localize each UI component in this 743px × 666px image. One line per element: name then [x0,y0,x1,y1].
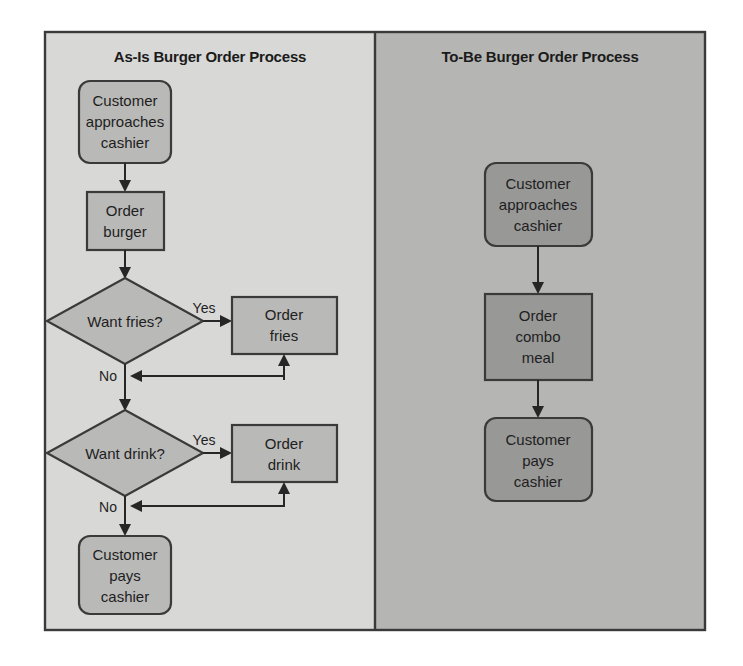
node-label-line: Order [519,307,557,324]
node-label-line: approaches [499,196,577,213]
node-label-line: Want fries? [87,313,162,330]
edge-label-drink-no: No [99,499,117,515]
node-label-line: cashier [514,473,562,490]
edge-label-fries-yes: Yes [193,300,216,316]
edge-label-drink-yes: Yes [193,432,216,448]
flowchart-svg: As-Is Burger Order Process To-Be Burger … [0,0,743,666]
node-as-is-order-drink[interactable]: Order drink [232,425,337,482]
node-label-line: approaches [86,113,164,130]
node-label-line: pays [522,452,554,469]
edge-label-fries-no: No [99,368,117,384]
node-label-line: Order [265,306,303,323]
node-label-line: cashier [101,588,149,605]
node-to-be-customer-pays-cashier[interactable]: Customer pays cashier [485,418,592,501]
node-as-is-customer-approaches-cashier[interactable]: Customer approaches cashier [79,81,171,163]
node-label-line: Customer [92,92,157,109]
node-label-line: burger [103,223,146,240]
node-label-line: Order [265,435,303,452]
node-as-is-order-burger[interactable]: Order burger [87,192,164,250]
node-label-line: cashier [101,134,149,151]
diagram-canvas: As-Is Burger Order Process To-Be Burger … [0,0,743,666]
node-label-line: Customer [505,175,570,192]
node-as-is-order-fries[interactable]: Order fries [232,297,337,354]
node-label-line: drink [268,456,301,473]
node-as-is-customer-pays-cashier[interactable]: Customer pays cashier [79,536,171,614]
node-label-line: cashier [514,217,562,234]
node-label-line: Order [106,202,144,219]
node-label-line: fries [270,327,298,344]
node-to-be-order-combo-meal[interactable]: Order combo meal [485,294,592,380]
node-label-line: pays [109,567,141,584]
to-be-panel-title: To-Be Burger Order Process [441,48,638,65]
node-label-line: combo [515,328,560,345]
node-label-line: Customer [92,546,157,563]
node-label-line: meal [522,349,555,366]
as-is-panel-title: As-Is Burger Order Process [114,48,306,65]
node-label-line: Want drink? [85,445,164,462]
node-label-line: Customer [505,431,570,448]
node-to-be-customer-approaches-cashier[interactable]: Customer approaches cashier [485,163,592,246]
